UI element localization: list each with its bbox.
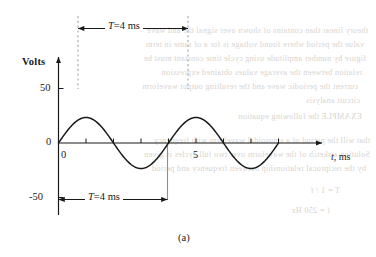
y-tick-label-neg50: -50 bbox=[29, 192, 43, 203]
waveform-plot bbox=[0, 0, 376, 257]
x-axis-ticks bbox=[86, 139, 279, 144]
figure-caption: (a) bbox=[178, 233, 190, 244]
x-tick-label-0: 0 bbox=[61, 150, 66, 161]
x-axis-label-units: , ms bbox=[334, 151, 351, 162]
dimension-bottom-value: 4 ms bbox=[100, 191, 120, 202]
y-tick-label-50: 50 bbox=[40, 83, 51, 94]
figure-container: theory linear than contains of shown ove… bbox=[0, 0, 376, 257]
x-axis-label: t, ms bbox=[331, 152, 350, 162]
y-axis-label: Volts bbox=[22, 57, 45, 68]
dimension-label-bottom: T=4 ms bbox=[85, 192, 123, 203]
dimension-label-top: T=4 ms bbox=[105, 21, 143, 32]
y-tick-label-0: 0 bbox=[46, 137, 51, 148]
dimension-top-value: 4 ms bbox=[120, 20, 140, 31]
x-tick-label-5: 5 bbox=[193, 150, 198, 161]
